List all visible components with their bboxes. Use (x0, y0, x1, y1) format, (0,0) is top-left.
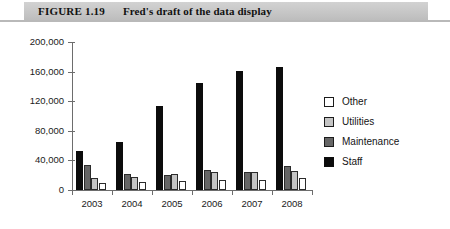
legend-swatch-icon (324, 157, 334, 167)
bar-utilities-2008 (291, 171, 298, 190)
bar-other-2005 (179, 181, 186, 190)
bar-other-2004 (139, 182, 146, 190)
bar-maintenance-2003 (84, 165, 91, 190)
legend-item-utilities: Utilities (324, 116, 399, 127)
legend-label: Utilities (342, 116, 374, 127)
bar-staff-2003 (76, 151, 83, 190)
legend-label: Staff (342, 156, 362, 167)
bar-maintenance-2005 (164, 175, 171, 190)
bar-staff-2006 (196, 83, 203, 190)
figure-container: FIGURE 1.19 Fred's draft of the data dis… (0, 0, 450, 229)
bar-utilities-2006 (211, 172, 218, 190)
bar-utilities-2005 (171, 174, 178, 190)
legend-item-maintenance: Maintenance (324, 136, 399, 147)
bar-staff-2008 (276, 67, 283, 190)
bar-staff-2005 (156, 106, 163, 190)
legend-swatch-icon (324, 97, 334, 107)
bar-maintenance-2008 (284, 166, 291, 190)
bar-utilities-2003 (91, 178, 98, 190)
bar-staff-2007 (236, 71, 243, 190)
figure-title: Fred's draft of the data display (123, 5, 272, 17)
bar-utilities-2007 (251, 172, 258, 191)
bar-other-2008 (299, 178, 306, 190)
chart-legend: OtherUtilitiesMaintenanceStaff (324, 96, 399, 176)
bar-maintenance-2004 (124, 174, 131, 190)
bar-staff-2004 (116, 142, 123, 190)
legend-item-other: Other (324, 96, 399, 107)
legend-swatch-icon (324, 117, 334, 127)
bar-maintenance-2007 (244, 172, 251, 191)
legend-label: Maintenance (342, 136, 399, 147)
bar-other-2007 (259, 180, 266, 190)
figure-header: FIGURE 1.19 Fred's draft of the data dis… (24, 2, 428, 20)
bar-other-2003 (99, 183, 106, 190)
header-divider (0, 20, 450, 22)
bar-other-2006 (219, 180, 226, 190)
legend-swatch-icon (324, 137, 334, 147)
bar-utilities-2004 (131, 177, 138, 190)
bar-maintenance-2006 (204, 170, 211, 190)
legend-label: Other (342, 96, 367, 107)
figure-number: FIGURE 1.19 (38, 5, 105, 17)
legend-item-staff: Staff (324, 156, 399, 167)
